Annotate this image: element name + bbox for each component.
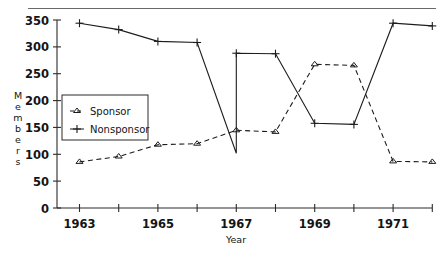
triangle-marker: [154, 142, 161, 147]
x-tick-label-1969: 1969: [299, 217, 331, 231]
y-axis-title-char-1: e: [15, 101, 21, 112]
y-axis-tick-labels: 350 300 250 200 150 100 50 0: [25, 14, 49, 216]
y-tick-label-0: 0: [41, 202, 49, 216]
plus-marker: [428, 22, 436, 30]
x-axis-title: Year: [225, 234, 246, 245]
plus-marker: [76, 19, 84, 27]
y-tick-label-150: 150: [25, 121, 49, 135]
y-axis-title-char-0: M: [14, 90, 22, 101]
y-tick-label-250: 250: [25, 67, 49, 81]
legend-entry-sponsor[interactable]: Sponsor: [70, 106, 131, 117]
triangle-marker: [74, 108, 81, 113]
plus-marker: [389, 19, 397, 27]
y-tick-label-200: 200: [25, 94, 49, 108]
chart-figure: 350 300 250 200 150 100 50 0 M e m b e r…: [0, 0, 444, 257]
plus-marker: [154, 37, 162, 45]
x-axis-tick-labels: 1963 1965 1967 1969 1971: [63, 217, 409, 231]
plus-marker: [115, 26, 123, 34]
y-axis-title-char-3: b: [15, 123, 21, 134]
plus-marker: [232, 49, 240, 57]
x-tick-label-1963: 1963: [63, 217, 95, 231]
y-axis-group: 350 300 250 200 150 100 50 0 M e m b e r…: [13, 14, 61, 216]
sponsor-line: [80, 64, 433, 162]
triangle-marker: [311, 61, 318, 66]
y-axis-title-char-6: s: [16, 156, 21, 167]
y-tick-label-100: 100: [25, 148, 49, 162]
triangle-marker: [115, 154, 122, 159]
y-axis-title-char-2: m: [13, 112, 22, 123]
x-tick-label-1965: 1965: [142, 217, 174, 231]
legend-sponsor-label: Sponsor: [90, 106, 131, 117]
y-axis-title-char-4: e: [15, 134, 21, 145]
y-tick-label-300: 300: [25, 40, 49, 54]
y-tick-label-50: 50: [33, 175, 49, 189]
plus-marker: [350, 120, 358, 128]
chart-legend: Sponsor Nonsponsor: [62, 95, 150, 140]
line-chart-plot: 350 300 250 200 150 100 50 0 M e m b e r…: [0, 0, 444, 257]
triangle-marker: [272, 129, 279, 134]
x-tick-label-1967: 1967: [220, 217, 252, 231]
x-axis-group: 1963 1965 1967 1969 1971 Year: [57, 204, 432, 245]
legend-entry-nonsponsor[interactable]: Nonsponsor: [70, 124, 150, 135]
triangle-marker: [429, 159, 436, 164]
plus-marker: [272, 50, 280, 58]
y-axis-title: M e m b e r s: [13, 90, 22, 167]
y-axis-title-char-5: r: [16, 145, 20, 156]
plus-marker: [311, 119, 319, 127]
x-tick-label-1971: 1971: [377, 217, 409, 231]
y-tick-label-350: 350: [25, 14, 49, 28]
legend-nonsponsor-label: Nonsponsor: [90, 124, 150, 135]
plus-marker: [193, 39, 201, 47]
